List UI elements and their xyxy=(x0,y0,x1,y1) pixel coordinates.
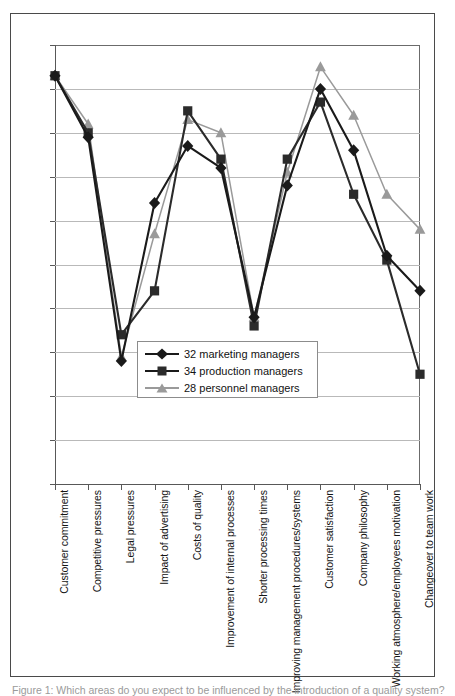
series-diamond xyxy=(49,70,425,367)
category-label: Competitive pressures xyxy=(92,490,103,592)
series-line xyxy=(55,67,420,357)
category-label: Customer commitment xyxy=(59,490,70,594)
legend-marker-square xyxy=(143,364,181,378)
category-label: Legal pressures xyxy=(125,490,136,563)
category-axis-labels: Customer commitmentCompetitive pressures… xyxy=(55,490,420,680)
data-point xyxy=(182,140,193,152)
data-point xyxy=(315,83,326,95)
category-label: Changeover to team work xyxy=(424,490,435,608)
data-point xyxy=(216,127,227,137)
x-axis xyxy=(55,484,421,485)
data-point xyxy=(348,144,359,156)
chart-legend: 32 marketing managers 34 production mana… xyxy=(137,341,318,398)
series-triangle xyxy=(50,61,426,361)
data-point xyxy=(415,370,424,379)
category-label: Shorter processing times xyxy=(258,490,269,604)
legend-label: 32 marketing managers xyxy=(181,348,300,360)
legend-marker-triangle xyxy=(143,381,181,395)
legend-item: 28 personnel managers xyxy=(143,379,312,396)
legend-marker-diamond xyxy=(143,347,181,361)
category-label: Improving management procedures/systems xyxy=(291,490,302,693)
figure-frame: Customer commitmentCompetitive pressures… xyxy=(10,13,435,677)
category-label: Customer satisfaction xyxy=(324,490,335,589)
x-axis-tick xyxy=(420,484,421,490)
data-point xyxy=(349,190,358,199)
category-label: Company philosophy xyxy=(358,490,369,586)
figure-caption: Figure 1: Which areas do you expect to b… xyxy=(12,684,452,696)
legend-item: 32 marketing managers xyxy=(143,345,312,362)
data-point xyxy=(183,106,192,115)
data-point xyxy=(149,197,160,209)
data-series-layer xyxy=(55,45,420,484)
data-point xyxy=(348,110,359,120)
category-label: Improvement of internal processes xyxy=(225,490,236,648)
data-point xyxy=(315,61,326,71)
legend-label: 34 production managers xyxy=(181,365,303,377)
data-point xyxy=(149,228,160,238)
category-label: Costs of quality xyxy=(192,490,203,560)
data-point xyxy=(150,286,159,295)
legend-item: 34 production managers xyxy=(143,362,312,379)
data-point xyxy=(116,355,127,367)
category-label: Impact of advertising xyxy=(159,490,170,585)
data-point xyxy=(381,189,392,199)
category-label: Working atmosphere/employees motivation xyxy=(391,490,402,687)
legend-label: 28 personnel managers xyxy=(181,382,300,394)
data-point xyxy=(283,155,292,164)
